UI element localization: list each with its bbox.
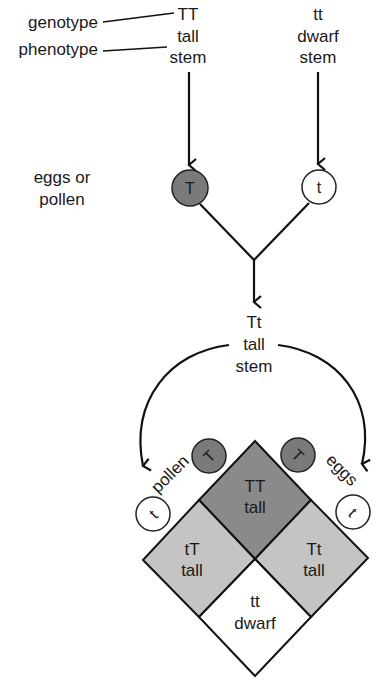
pollen-label: pollen: [147, 451, 193, 497]
cell-right-phenotype: tall: [303, 561, 325, 580]
eggs-label: eggs: [322, 450, 362, 490]
cell-left-phenotype: tall: [181, 561, 203, 580]
cell-left-genotype: tT: [184, 540, 199, 559]
offspring-phenotype-line2: stem: [236, 357, 273, 376]
phenotype-label: phenotype: [19, 40, 98, 59]
cell-right-genotype: Tt: [306, 540, 321, 559]
cell-top-genotype: TT: [245, 477, 266, 496]
parent1-genotype: TT: [178, 5, 199, 24]
gamete-label-line1: eggs or: [34, 168, 91, 187]
gamete-label-line2: pollen: [39, 190, 84, 209]
phenotype-leader-line: [103, 47, 167, 51]
legend: genotype phenotype eggs or pollen: [19, 13, 174, 209]
genotype-leader-line: [103, 13, 174, 22]
parent1-phenotype-line1: tall: [177, 27, 199, 46]
join-line-left: [200, 204, 254, 260]
offspring-genotype: Tt: [246, 313, 261, 332]
parent-dominant: TT tall stem T: [170, 5, 208, 206]
monohybrid-cross-diagram: genotype phenotype eggs or pollen TT tal…: [0, 0, 376, 689]
offspring-phenotype-line1: tall: [243, 335, 265, 354]
cell-top-phenotype: tall: [244, 498, 266, 517]
cell-bottom-genotype: tt: [250, 592, 260, 611]
cell-bottom-phenotype: dwarf: [234, 614, 276, 633]
fertilization-lines: [200, 203, 309, 302]
parent-recessive: tt dwarf stem t: [297, 5, 339, 204]
parent1-phenotype-line2: stem: [170, 48, 207, 67]
parent2-phenotype-line1: dwarf: [297, 27, 339, 46]
offspring: Tt tall stem: [236, 313, 273, 376]
parent2-gamete-allele: t: [317, 179, 322, 196]
parent1-gamete-allele: T: [185, 180, 195, 197]
join-line-right: [254, 203, 309, 260]
parent2-genotype: tt: [313, 5, 323, 24]
parent2-phenotype-line2: stem: [300, 48, 337, 67]
genotype-label: genotype: [28, 13, 98, 32]
